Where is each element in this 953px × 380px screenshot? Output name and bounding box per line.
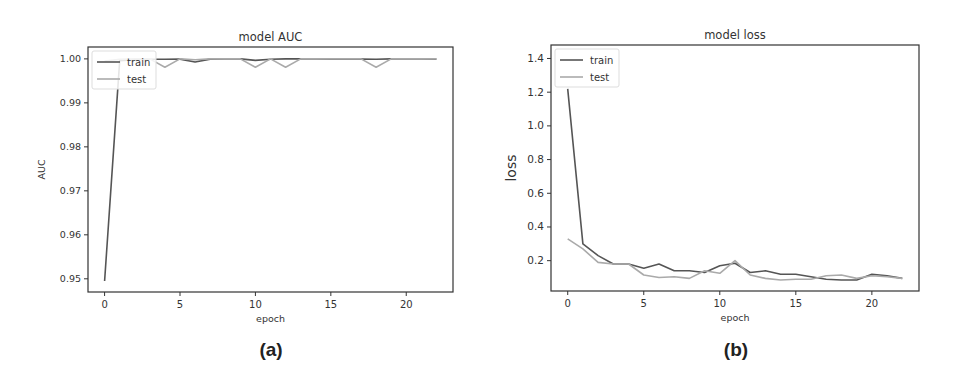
y-tick-label: 0.96 (60, 229, 81, 240)
y-tick-label: 1.0 (527, 119, 544, 131)
x-tick-label: 20 (400, 299, 413, 310)
y-tick-label: 1.4 (527, 52, 544, 64)
auc-chart-caption: (a) (241, 339, 301, 361)
x-tick-label: 5 (641, 298, 647, 309)
auc-chart-panel: model AUC051015200.950.960.970.980.991.0… (0, 0, 476, 380)
y-axis-label: loss (503, 154, 519, 181)
y-tick-label: 0.6 (527, 187, 544, 199)
y-tick-label: 0.95 (60, 273, 81, 284)
auc-chart: model AUC051015200.950.960.970.980.991.0… (0, 0, 476, 380)
x-tick-label: 15 (324, 299, 337, 310)
chart-title: model loss (704, 28, 766, 42)
y-tick-label: 0.8 (527, 153, 544, 165)
legend-label-train: train (590, 55, 613, 66)
chart-title: model AUC (239, 30, 303, 44)
legend-label-test: test (590, 72, 609, 83)
y-tick-label: 1.00 (60, 53, 81, 64)
y-tick-label: 0.2 (527, 254, 544, 266)
y-tick-label: 0.99 (60, 97, 81, 108)
x-axis-label: epoch (721, 312, 750, 323)
x-tick-label: 15 (789, 298, 802, 309)
x-tick-label: 10 (249, 299, 262, 310)
series-line-train (105, 59, 437, 281)
legend-label-train: train (127, 57, 150, 68)
y-tick-label: 0.4 (527, 220, 544, 232)
y-tick-label: 0.97 (60, 185, 81, 196)
y-axis-label: AUC (36, 159, 47, 179)
y-tick-label: 1.2 (527, 86, 544, 98)
x-tick-label: 20 (865, 298, 878, 309)
x-tick-label: 0 (101, 299, 107, 310)
loss-chart-caption: (b) (706, 339, 766, 361)
loss-chart-panel: model loss051015200.20.40.60.81.01.21.4e… (476, 0, 953, 380)
series-line-train (568, 89, 903, 280)
x-tick-label: 10 (713, 298, 726, 309)
legend-label-test: test (127, 74, 146, 85)
legend: traintest (555, 49, 619, 87)
series-line-test (568, 239, 903, 280)
x-tick-label: 5 (177, 299, 183, 310)
y-tick-label: 0.98 (60, 141, 81, 152)
x-axis-label: epoch (256, 313, 285, 324)
x-tick-label: 0 (565, 298, 571, 309)
loss-chart: model loss051015200.20.40.60.81.01.21.4e… (476, 0, 953, 380)
legend: traintest (92, 51, 156, 89)
